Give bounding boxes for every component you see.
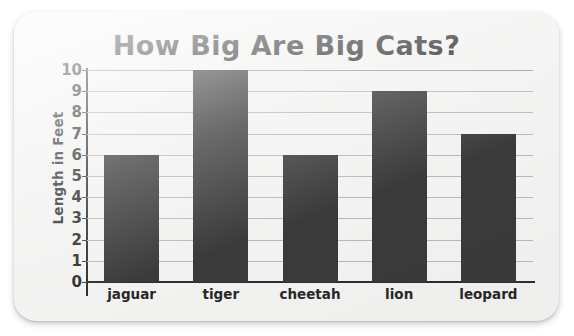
y-axis-tick-label: 1 xyxy=(72,253,82,268)
bar-tiger xyxy=(193,70,248,282)
bar-series xyxy=(87,70,533,282)
x-axis-category-labels: jaguartigercheetahlionleopard xyxy=(87,286,533,312)
bar-jaguar xyxy=(104,155,159,282)
y-axis-tick-label: 4 xyxy=(72,190,82,205)
y-axis-tick-label: 9 xyxy=(72,84,82,99)
bar-cheetah xyxy=(283,155,338,282)
y-axis-tick-label: 3 xyxy=(72,211,82,226)
x-axis-label-cheetah: cheetah xyxy=(265,286,354,302)
chart-card: How Big Are Big Cats? Length in Feet 109… xyxy=(14,12,559,321)
x-axis-label-leopard: leopard xyxy=(444,286,533,302)
y-axis-tick-label: 8 xyxy=(72,105,82,120)
x-axis-label-jaguar: jaguar xyxy=(87,286,176,302)
y-axis-tick-label: 2 xyxy=(72,232,82,247)
y-axis-tick-label: 0 xyxy=(72,275,82,290)
bar-lion xyxy=(372,91,427,282)
y-axis-tick-labels: 109876543210 xyxy=(44,70,82,282)
y-axis-tick xyxy=(82,282,87,283)
y-axis-tick-label: 10 xyxy=(61,63,82,78)
bar-leopard xyxy=(461,134,516,282)
y-axis-tick-label: 6 xyxy=(72,147,82,162)
plot-area xyxy=(87,70,533,282)
y-axis-tick-label: 7 xyxy=(72,126,82,141)
y-axis-tick-label: 5 xyxy=(72,169,82,184)
chart-page: How Big Are Big Cats? Length in Feet 109… xyxy=(0,0,574,336)
x-axis-label-tiger: tiger xyxy=(176,286,265,302)
x-axis-label-lion: lion xyxy=(355,286,444,302)
chart-title: How Big Are Big Cats? xyxy=(14,30,559,61)
